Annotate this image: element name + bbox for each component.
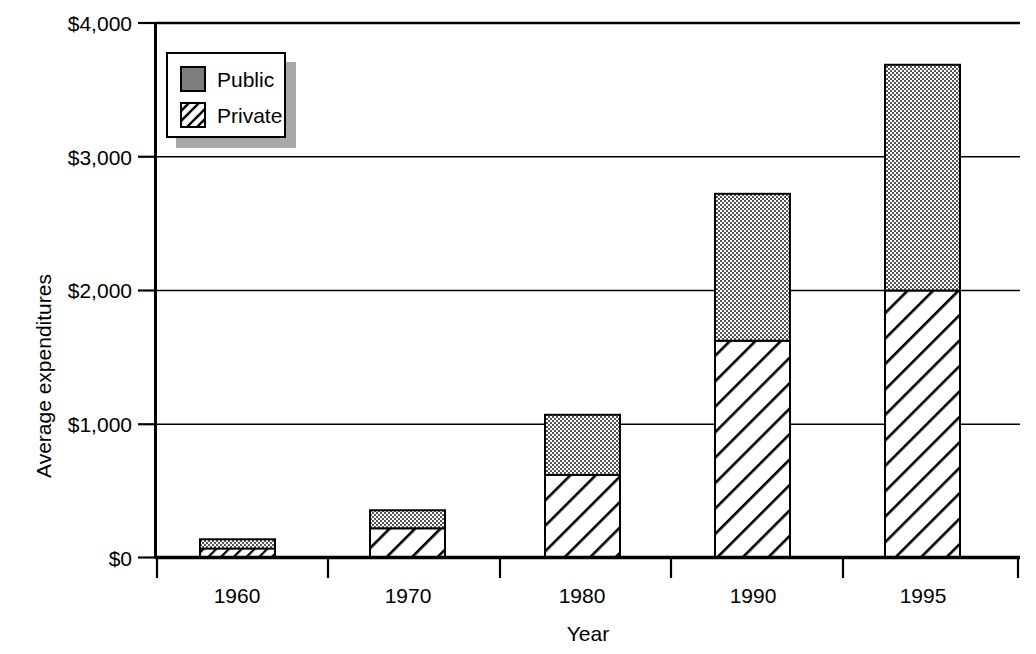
legend-label-public: Public: [217, 69, 274, 90]
stacked-bar-chart: $4,000 $3,000 $2,000 $1,000 $0 Average e…: [0, 0, 1036, 654]
bar-1995-private: [885, 291, 960, 559]
x-tick-label-1990: 1990: [703, 585, 803, 606]
bar-1970-private: [370, 528, 445, 558]
bar-1995-public: [885, 65, 960, 291]
bar-1990-private: [715, 341, 790, 558]
bar-1970: [370, 510, 445, 558]
chart-canvas: [0, 0, 1036, 654]
bar-1980: [545, 415, 620, 558]
legend-label-private: Private: [217, 105, 282, 126]
bar-1970-public: [370, 510, 445, 528]
bar-1980-public: [545, 415, 620, 475]
legend-hatch-icon: [182, 104, 204, 126]
x-tick-label-1980: 1980: [532, 585, 632, 606]
legend-item-public[interactable]: Public: [180, 66, 274, 92]
bar-1960: [200, 539, 275, 558]
legend-item-private[interactable]: Private: [180, 102, 282, 128]
bar-1960-public: [200, 539, 275, 548]
legend-swatch-public-icon: [180, 66, 206, 92]
y-tick-label-4000: $4,000: [34, 13, 132, 34]
y-tick-label-3000: $3,000: [34, 147, 132, 168]
bar-1980-private: [545, 475, 620, 558]
y-axis-title: Average expenditures: [32, 274, 56, 478]
x-tick-marks: [157, 557, 1018, 578]
bar-1995: [885, 65, 960, 558]
legend-swatch-private-icon: [180, 102, 206, 128]
x-tick-label-1995: 1995: [873, 585, 973, 606]
x-tick-label-1960: 1960: [187, 585, 287, 606]
x-tick-label-1970: 1970: [358, 585, 458, 606]
bar-1990-public: [715, 194, 790, 341]
bar-group: [200, 65, 960, 558]
y-tick-label-0: $0: [34, 548, 132, 569]
y-tick-marks: [138, 23, 155, 558]
legend-box: Public Private: [166, 52, 286, 138]
x-axis-title: Year: [538, 622, 638, 646]
bar-1990: [715, 194, 790, 558]
